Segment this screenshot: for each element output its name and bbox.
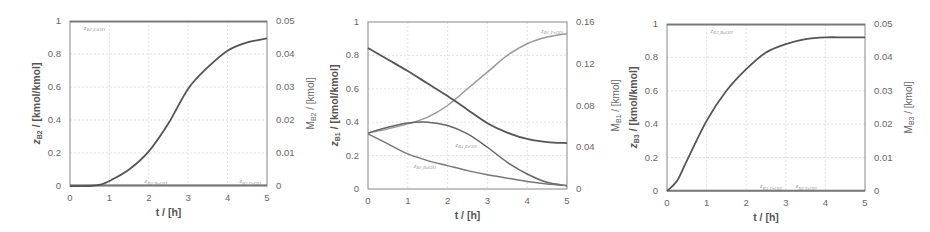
x-tick-label: 1 [704,197,709,208]
y-tick-label: 0.4 [645,118,658,129]
y2-tick-label: 0.04 [874,51,893,62]
curve-label: zB3,PrOH [759,182,782,192]
curve-label-subscript: B3,BuOH [713,30,733,36]
y-tick-label: 0.8 [645,51,658,62]
x-tick-label: 2 [744,197,749,208]
y2-axis-label-unit: / [kmol] [903,81,914,116]
x-tick-label: 0 [664,197,669,208]
gridlines [667,24,865,191]
plot-frame [667,24,865,191]
y2-tick-label: 0.01 [874,152,893,163]
chart-b3: 01234500.20.40.60.8100.010.020.030.040.0… [0,0,930,232]
y2-axis-label-subscript: B3 [908,116,915,125]
y2-axis-label: MB3 / [kmol] [903,81,915,133]
y-axis-label-unit: / [kmol/kmol] [627,67,639,135]
curve-label: zB3,EtOH [795,182,817,192]
y2-tick-label: 0.05 [874,18,893,29]
curve-label: zB3,BuOH [710,27,734,37]
y2-tick-label: 0 [874,185,879,196]
y-tick-label: 0.2 [645,152,658,163]
x-tick-label: 3 [783,197,788,208]
y-axis-label-subscript: B3 [633,134,640,143]
chart-panel-b3: 01234500.20.40.60.8100.010.020.030.040.0… [0,0,310,232]
y-tick-label: 0.6 [645,85,658,96]
y-axis-label: zB3 / [kmol/kmol] [627,67,640,150]
y2-tick-label: 0.03 [874,85,893,96]
series-line-m-b3 [667,37,865,191]
x-tick-label: 4 [823,197,828,208]
x-tick-label: 5 [862,197,867,208]
y-tick-label: 0 [653,185,658,196]
y-tick-label: 1 [653,18,658,29]
y2-tick-label: 0.02 [874,118,893,129]
x-axis-label: t / [h] [753,211,779,223]
y2-axis-label-symbol: M [903,125,914,133]
